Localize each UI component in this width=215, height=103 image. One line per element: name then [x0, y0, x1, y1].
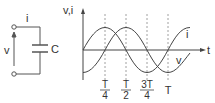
voltage-curve-label: v — [176, 54, 182, 66]
tick-labels: T 4 T 2 3T 4 T — [100, 79, 172, 101]
svg-text:3T: 3T — [141, 79, 153, 90]
y-axis-arrowhead — [81, 8, 85, 14]
dashed-guides — [105, 14, 168, 80]
capacitor-ac-diagram: i v C v,i t i v T 4 T 2 3T 4 — [0, 0, 215, 103]
capacitor-label: C — [51, 43, 59, 55]
top-wire — [16, 27, 40, 45]
voltage-label: v — [4, 44, 10, 56]
capacitor-circuit — [12, 25, 48, 76]
x-axis-label: t — [207, 44, 210, 56]
tick-t-over-2: T 2 — [121, 79, 131, 101]
svg-text:T: T — [165, 84, 172, 96]
bottom-wire — [16, 52, 40, 74]
tick-3t-over-4: 3T 4 — [140, 79, 154, 101]
top-terminal — [12, 25, 16, 29]
svg-text:4: 4 — [144, 90, 150, 101]
svg-text:T: T — [102, 79, 108, 90]
tick-t: T — [165, 84, 172, 96]
y-axis-label: v,i — [63, 4, 73, 16]
svg-text:T: T — [123, 79, 129, 90]
svg-text:2: 2 — [123, 90, 129, 101]
tick-t-over-4: T 4 — [100, 79, 110, 101]
svg-text:4: 4 — [102, 90, 108, 101]
bottom-terminal — [12, 72, 16, 76]
voltage-arrowhead — [12, 32, 16, 37]
current-label: i — [26, 12, 28, 24]
x-axis-arrowhead — [200, 48, 206, 52]
current-curve-label: i — [186, 28, 188, 40]
